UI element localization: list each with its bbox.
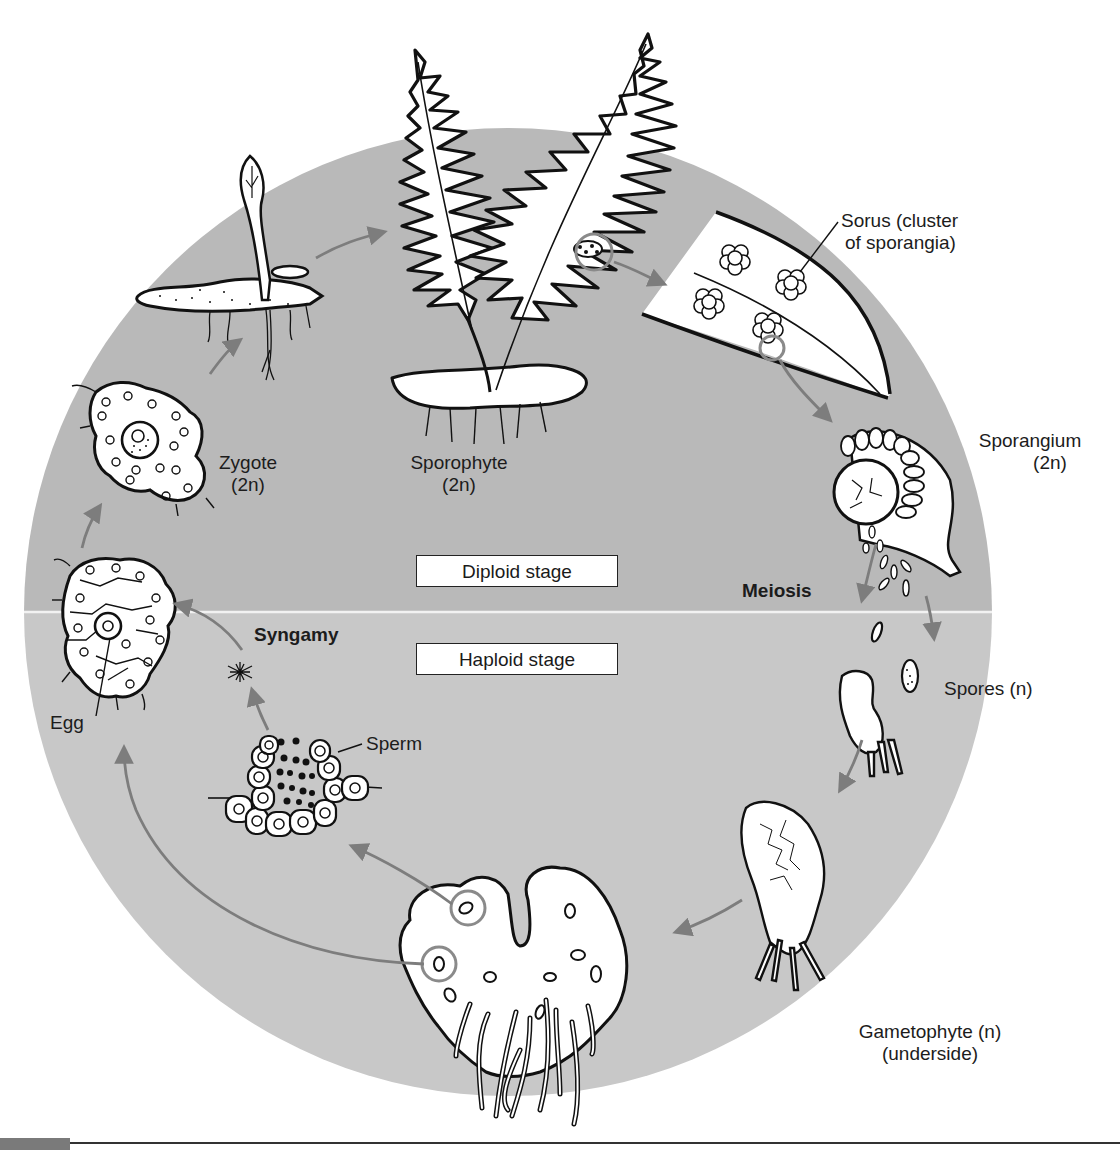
sporophyte-label: Sporophyte (2n) bbox=[384, 452, 534, 496]
egg-label: Egg bbox=[50, 712, 84, 734]
spores-label: Spores (n) bbox=[944, 678, 1033, 700]
gametophyte-label: Gametophyte (n) (underside) bbox=[850, 1021, 1010, 1065]
sporophyte-label-line1: Sporophyte bbox=[384, 452, 534, 474]
sporangium-label: Sporangium (2n) bbox=[960, 430, 1100, 474]
haploid-stage-box: Haploid stage bbox=[416, 643, 618, 675]
figure-number-tab bbox=[0, 1138, 70, 1150]
gametophyte-label-line1: Gametophyte (n) bbox=[850, 1021, 1010, 1043]
zygote-label: Zygote (2n) bbox=[208, 452, 288, 496]
zygote-label-line1: Zygote bbox=[208, 452, 288, 474]
diploid-stage-label: Diploid stage bbox=[462, 561, 572, 582]
sorus-label: Sorus (cluster of sporangia) bbox=[841, 210, 958, 254]
sorus-label-line1: Sorus (cluster bbox=[841, 210, 958, 232]
gametophyte-label-line2: (underside) bbox=[850, 1043, 1010, 1065]
sperm-label: Sperm bbox=[366, 733, 422, 755]
syngamy-label: Syngamy bbox=[254, 624, 338, 646]
haploid-stage-label: Haploid stage bbox=[459, 649, 575, 670]
zygote-label-line2: (2n) bbox=[208, 474, 288, 496]
figure-bottom-rule bbox=[70, 1142, 1120, 1144]
diploid-stage-box: Diploid stage bbox=[416, 555, 618, 587]
sporangium-label-line2: (2n) bbox=[960, 452, 1100, 474]
fern-life-cycle-diagram: Diploid stage Haploid stage Meiosis Syng… bbox=[0, 0, 1120, 1150]
sporangium-label-line1: Sporangium bbox=[960, 430, 1100, 452]
sorus-label-line2: of sporangia) bbox=[841, 232, 958, 254]
meiosis-label: Meiosis bbox=[742, 580, 812, 602]
sporophyte-label-line2: (2n) bbox=[384, 474, 534, 496]
